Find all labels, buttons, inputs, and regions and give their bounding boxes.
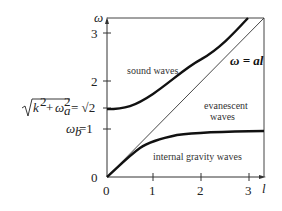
x-axis-label: l [262,181,266,196]
curve-sound-waves [107,18,248,109]
label-sound-waves: sound waves [127,65,178,76]
dispersion-diagram: ω 3 2 0 k 2 + ω 2 a = √2 ω b =1 0 1 2 3 … [0,0,282,211]
sqrt2-value: = √2 [71,100,95,115]
label-omega-al: ω = al [230,53,264,68]
y-annotation-sqrt2: k 2 + ω 2 a = √2 [22,94,95,118]
y-tick-label-3: 3 [91,26,98,41]
x-tick-label-2: 2 [197,183,204,198]
svg-text:+: + [46,100,53,115]
y-tick-label-2: 2 [91,74,98,89]
x-tick-label-0: 0 [103,183,110,198]
svg-text:ω: ω [66,121,75,136]
label-internal-gravity-waves: internal gravity waves [153,151,242,162]
x-tick-label-1: 1 [149,183,156,198]
svg-text:a: a [64,103,71,118]
y-tick-label-0: 0 [91,170,98,185]
svg-text:k: k [33,100,39,115]
x-tick-label-3: 3 [245,183,252,198]
label-evanescent: evanescent [204,100,248,111]
y-annotation-omega-b: ω b =1 [66,121,93,139]
y-axis-label: ω [94,10,103,25]
svg-text:ω: ω [55,100,64,115]
label-evanescent-waves: waves [210,111,235,122]
x-axis-arrow-icon [259,175,266,179]
svg-text:=1: =1 [79,121,93,136]
